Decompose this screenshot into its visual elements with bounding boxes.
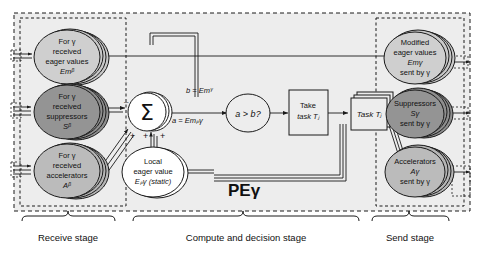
receive-eager-line-2: eager values — [46, 57, 89, 66]
comparison-label: a > b? — [235, 109, 260, 119]
stage-label-send: Send stage — [386, 232, 434, 243]
send-stack-accelerators[interactable]: Accelerators Aγ sent by γ — [385, 145, 454, 197]
local-eager-line-2: Eₚγ (static) — [135, 177, 172, 186]
local-eager-line-1: eager value — [133, 167, 172, 176]
receive-suppressors-line-2: suppressors — [47, 112, 88, 121]
receive-accelerators-line-2: accelerators — [47, 171, 88, 180]
comparison-node[interactable]: a > b? — [226, 94, 270, 132]
receive-accelerators-line-1: received — [53, 161, 81, 170]
sign-plus-right: + — [160, 131, 165, 141]
pe-gamma-title: PEγ — [228, 181, 261, 200]
local-eager-value-node[interactable]: Local eager value Eₚγ (static) — [122, 147, 188, 198]
receive-accelerators-line-0: For γ — [58, 151, 75, 160]
receive-suppressors-line-0: For γ — [58, 92, 75, 101]
receive-stack-accelerators[interactable]: For γ received accelerators Aᵝ — [34, 143, 109, 199]
send-modified-line-1: eager values — [394, 48, 437, 57]
stage-label-compute: Compute and decision stage — [186, 232, 306, 243]
summation-node[interactable]: Σ — [128, 92, 172, 131]
label-a-value: a = Emₚγ — [172, 116, 204, 125]
sign-minus: – — [124, 97, 129, 106]
task-label: Task Tⱼ — [357, 110, 383, 119]
receive-stack-eager-values[interactable]: For γ received eager values Emᵝ — [34, 29, 109, 85]
receive-suppressors-line-3: Sᵝ — [63, 122, 72, 131]
send-modified-line-3: sent by γ — [400, 68, 430, 77]
send-accelerators-line-1: Aγ — [410, 167, 421, 176]
take-task-line-0: Take — [300, 101, 316, 110]
send-modified-line-0: Modified — [401, 38, 429, 47]
sign-plus-mid: + — [143, 131, 148, 141]
diagram-root: For γ received eager values Emᵝ For γ re… — [0, 0, 485, 264]
stage-braces — [22, 211, 449, 221]
receive-eager-line-0: For γ — [58, 37, 75, 46]
pe-gamma-diagram: For γ received eager values Emᵝ For γ re… — [0, 0, 485, 264]
receive-eager-line-3: Emᵝ — [60, 67, 75, 76]
send-suppressors-line-1: Sγ — [411, 109, 421, 118]
send-stack-suppressors[interactable]: Suppressors Sγ sent by γ — [386, 88, 453, 138]
receive-suppressors-line-1: received — [53, 102, 81, 111]
send-suppressors-line-2: sent by γ — [400, 119, 430, 128]
sign-plus-left: + — [130, 131, 135, 141]
receive-eager-line-1: received — [53, 47, 81, 56]
send-modified-line-2: Emγ — [408, 58, 424, 67]
local-eager-line-0: Local — [144, 157, 162, 166]
stage-label-receive: Receive stage — [38, 232, 98, 243]
send-accelerators-line-2: sent by γ — [400, 177, 430, 186]
take-task-box[interactable]: Take task Tⱼ — [289, 90, 328, 135]
sigma-symbol: Σ — [140, 100, 154, 125]
send-stack-modified-eager[interactable]: Modified eager values Emγ sent by γ — [384, 30, 455, 84]
receive-stack-suppressors[interactable]: For γ received suppressors Sᵝ — [34, 84, 109, 140]
take-task-line-1: task Tⱼ — [297, 112, 319, 121]
receive-accelerators-line-3: Aᵝ — [62, 181, 72, 190]
send-accelerators-line-0: Accelerators — [394, 157, 436, 166]
send-suppressors-line-0: Suppressors — [394, 99, 436, 108]
label-b-value: b = Emᵞ — [186, 86, 214, 95]
